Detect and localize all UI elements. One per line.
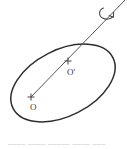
rotation-axis-line — [31, 0, 127, 97]
caption-text: ____ ____ _____ ____ ___ — [8, 141, 106, 146]
caption-clipped-strip: ____ ____ _____ ____ ___ — [0, 141, 127, 149]
label-origin-o-prime: O' — [67, 68, 75, 77]
tilted-ellipse — [0, 28, 127, 138]
figure-drawing — [0, 0, 127, 149]
figure-container: O O' ____ ____ _____ ____ ___ — [0, 0, 127, 149]
point-marker-o-prime — [65, 58, 72, 65]
label-origin-o: O — [30, 103, 37, 112]
